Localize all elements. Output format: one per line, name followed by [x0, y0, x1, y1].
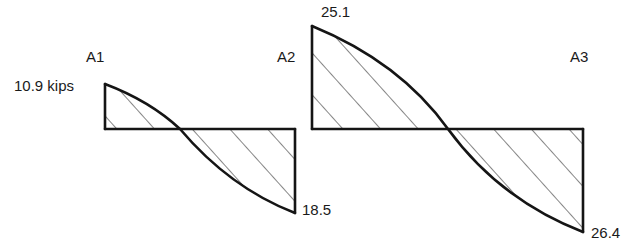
support-label-a3: A3 [570, 48, 588, 65]
span-1-start-value: 10.9 kips [14, 77, 74, 94]
span-2-end-value: 26.4 [591, 224, 620, 241]
support-label-a1: A1 [86, 48, 104, 65]
support-label-a2: A2 [277, 48, 295, 65]
shear-force-diagram: A1 A2 A3 10.9 kips 18.5 25.1 26.4 [0, 0, 640, 248]
span-1-positive-region [105, 84, 180, 129]
span-2-start-value: 25.1 [321, 3, 350, 20]
span-1-negative-region [180, 129, 295, 213]
span-2-shear [312, 26, 583, 232]
span-2-negative-region [448, 129, 583, 232]
span-1-end-value: 18.5 [302, 201, 331, 218]
span-1-shear [105, 84, 295, 213]
span-2-positive-region [312, 26, 448, 129]
